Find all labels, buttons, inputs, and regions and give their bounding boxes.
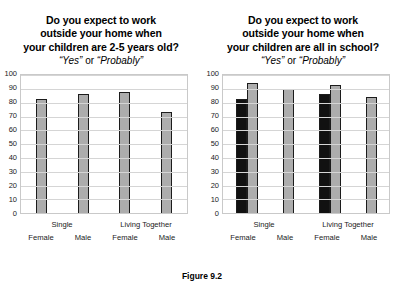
x-axis-category-label: Male (348, 233, 390, 242)
chart-panel-left: Do you expect to work outside your home … (0, 0, 202, 262)
bar (366, 97, 377, 213)
y-axis-tick-label: 100 (206, 70, 219, 78)
title-line-1: Do you expect to work (0, 14, 202, 27)
x-axis-group-label: Living Together (104, 220, 188, 229)
gridline (21, 186, 187, 187)
bar (119, 92, 130, 213)
gridline (21, 117, 187, 118)
chart-area-left: 1009080706050403020100 (20, 74, 188, 214)
gridline (223, 89, 389, 90)
gridline (21, 144, 187, 145)
x-axis-left: SingleLiving Together FemaleMaleFemaleMa… (20, 214, 188, 248)
x-axis-group-label: Living Together (306, 220, 390, 229)
y-axis-tick-label: 70 (9, 112, 17, 120)
x-axis-group-label: Single (20, 220, 104, 229)
y-axis-tick-label: 40 (9, 154, 17, 162)
y-axis-tick-label: 0 (215, 210, 219, 218)
subtitle-conjunction: or (82, 55, 96, 66)
gridline (223, 158, 389, 159)
gridline (223, 172, 389, 173)
y-axis-tick-label: 0 (13, 210, 17, 218)
x-axis-group-label: Single (222, 220, 306, 229)
y-axis-tick-label: 90 (9, 84, 17, 92)
y-axis-tick-label: 50 (9, 140, 17, 148)
plot-area-right (222, 74, 390, 214)
x-axis-right: SingleLiving Together FemaleMaleFemaleMa… (222, 214, 390, 248)
chart-subtitle-left: “Yes” or “Probably” (0, 55, 202, 68)
x-axis-item-tier-left: FemaleMaleFemaleMale (20, 233, 188, 242)
gridline (223, 117, 389, 118)
x-axis-group-tier-right: SingleLiving Together (222, 220, 390, 229)
x-axis-item-tier-right: FemaleMaleFemaleMale (222, 233, 390, 242)
chart-panel-right: Do you expect to work outside your home … (202, 0, 404, 262)
chart-subtitle-right: “Yes” or “Probably” (202, 55, 404, 68)
subtitle-quote-1: “Yes” (59, 55, 82, 66)
x-axis-category-label: Male (146, 233, 188, 242)
chart-title-left: Do you expect to work outside your home … (0, 0, 202, 68)
y-axis-tick-label: 10 (9, 196, 17, 204)
y-axis-tick-label: 90 (211, 84, 219, 92)
subtitle-quote-1: “Yes” (261, 55, 284, 66)
chart-panels: Do you expect to work outside your home … (0, 0, 404, 262)
y-axis-tick-label: 20 (9, 182, 17, 190)
gridline (223, 186, 389, 187)
x-axis-group-tier-left: SingleLiving Together (20, 220, 188, 229)
y-axis-tick-label: 40 (211, 154, 219, 162)
figure-caption: Figure 9.2 (0, 271, 404, 281)
y-axis-tick-label: 10 (211, 196, 219, 204)
chart-area-right: 1009080706050403020100 (222, 74, 390, 214)
subtitle-quote-2: “Probably” (299, 55, 345, 66)
gridline (223, 75, 389, 76)
y-axis-tick-label: 30 (9, 168, 17, 176)
y-axis-tick-label: 80 (211, 98, 219, 106)
bar (283, 89, 294, 213)
x-axis-category-label: Female (306, 233, 348, 242)
gridline (21, 172, 187, 173)
x-axis-category-label: Female (104, 233, 146, 242)
gridline (21, 103, 187, 104)
y-axis-tick-label: 20 (211, 182, 219, 190)
y-axis-tick-label: 30 (211, 168, 219, 176)
x-axis-category-label: Female (222, 233, 264, 242)
y-axis-left: 1009080706050403020100 (0, 74, 17, 214)
subtitle-conjunction: or (284, 55, 298, 66)
y-axis-tick-label: 60 (9, 126, 17, 134)
y-axis-tick-label: 80 (9, 98, 17, 106)
y-axis-tick-label: 70 (211, 112, 219, 120)
gridline (21, 130, 187, 131)
subtitle-quote-2: “Probably” (97, 55, 143, 66)
gridline (223, 103, 389, 104)
gridline (223, 199, 389, 200)
x-axis-category-label: Male (62, 233, 104, 242)
gridline (21, 158, 187, 159)
bar (319, 94, 330, 213)
bar (161, 112, 172, 213)
gridline (21, 75, 187, 76)
gridline (223, 130, 389, 131)
title-line-3: your children are 2-5 years old? (0, 41, 202, 54)
chart-title-right: Do you expect to work outside your home … (202, 0, 404, 68)
bar (330, 85, 341, 213)
figure-9-2: Do you expect to work outside your home … (0, 0, 404, 289)
y-axis-tick-label: 50 (211, 140, 219, 148)
gridline (21, 199, 187, 200)
title-line-3: your children are all in school? (202, 41, 404, 54)
y-axis-tick-label: 60 (211, 126, 219, 134)
plot-area-left (20, 74, 188, 214)
gridline (223, 144, 389, 145)
title-line-2: outside your home when (202, 27, 404, 40)
x-axis-category-label: Female (20, 233, 62, 242)
gridline (21, 89, 187, 90)
bar (78, 94, 89, 213)
y-axis-tick-label: 100 (4, 70, 17, 78)
title-line-1: Do you expect to work (202, 14, 404, 27)
y-axis-right: 1009080706050403020100 (202, 74, 219, 214)
title-line-2: outside your home when (0, 27, 202, 40)
x-axis-category-label: Male (264, 233, 306, 242)
